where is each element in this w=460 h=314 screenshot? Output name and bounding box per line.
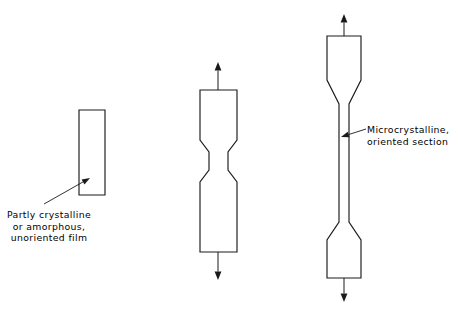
diagram-canvas — [0, 0, 460, 314]
specimen-layer — [79, 36, 361, 278]
undrawn-film-label-leader-line — [44, 182, 83, 204]
undrawn-film-label-line-3: unoriented film — [7, 232, 91, 244]
specimen-drawn — [327, 36, 361, 278]
undrawn-film-label: Partly crystalline or amorphous, unorien… — [7, 209, 91, 244]
polymer-drawing-diagram: Partly crystalline or amorphous, unorien… — [0, 0, 460, 314]
oriented-section-label: Microcrystalline, oriented section — [367, 124, 449, 147]
tensile-arrow-up-head — [341, 14, 348, 23]
tensile-arrow-down-head — [341, 294, 348, 303]
undrawn-film-label-line-2: or amorphous, — [7, 221, 91, 233]
tensile-arrow-up-head — [215, 62, 222, 71]
oriented-section-label-line-2: oriented section — [367, 136, 449, 148]
undrawn-film-label-line-1: Partly crystalline — [7, 209, 91, 221]
tensile-arrow-down-head — [215, 272, 222, 281]
oriented-section-label-line-1: Microcrystalline, — [367, 124, 449, 136]
specimen-necking — [200, 90, 237, 252]
oriented-section-label-leader-line — [349, 129, 366, 135]
